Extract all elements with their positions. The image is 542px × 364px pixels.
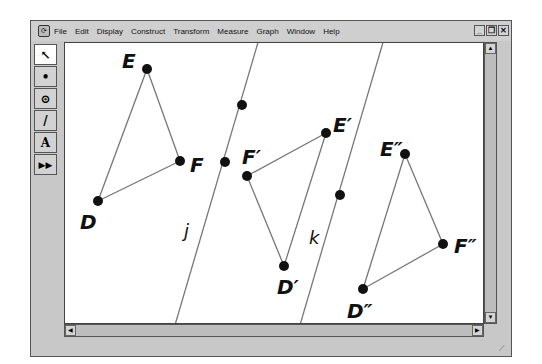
menu-file[interactable]: File (54, 27, 67, 36)
sketchpad-window: ⟳ File Edit Display Construct Transform … (30, 20, 512, 357)
point-d[interactable] (93, 196, 103, 206)
triangle-def[interactable] (98, 69, 180, 201)
label-f-double-prime: F″ (454, 234, 477, 258)
label-line-k: k (309, 227, 321, 248)
horizontal-scrollbar[interactable]: ◀ ▶ (64, 324, 484, 337)
point-d-double-prime[interactable] (358, 284, 368, 294)
compass-tool-icon[interactable]: ⊙ (34, 88, 57, 109)
point-f-double-prime[interactable] (438, 239, 448, 249)
menu-transform[interactable]: Transform (173, 27, 209, 36)
menu-window[interactable]: Window (287, 27, 315, 36)
point-e[interactable] (142, 64, 152, 74)
minimize-button[interactable]: _ (474, 25, 485, 36)
label-d-double-prime: D″ (347, 299, 373, 323)
line-j-point-1[interactable] (237, 100, 247, 110)
label-e-double-prime: E″ (380, 137, 403, 161)
menu-measure[interactable]: Measure (217, 27, 248, 36)
window-controls: _ ❐ ✕ (474, 25, 509, 36)
label-line-j: j (181, 220, 189, 241)
triangle-def-double-prime[interactable] (363, 154, 443, 289)
menubar: ⟳ File Edit Display Construct Transform … (31, 21, 511, 41)
custom-tool-icon[interactable]: ▶▶ (34, 154, 57, 175)
label-e: E (122, 49, 136, 73)
close-button[interactable]: ✕ (498, 25, 509, 36)
point-f-prime[interactable] (242, 171, 252, 181)
app-icon[interactable]: ⟳ (38, 25, 50, 37)
menu-display[interactable]: Display (97, 27, 123, 36)
sketch-canvas[interactable]: E F D E′ F′ D′ E″ F″ D″ j k (64, 42, 484, 324)
restore-button[interactable]: ❐ (486, 25, 497, 36)
menu-edit[interactable]: Edit (75, 27, 89, 36)
line-k-point[interactable] (335, 190, 345, 200)
label-e-prime: E′ (333, 113, 353, 137)
point-d-prime[interactable] (279, 261, 289, 271)
text-tool-icon[interactable]: A (34, 132, 57, 153)
label-f: F (190, 153, 204, 177)
scroll-up-button[interactable]: ▲ (485, 43, 496, 54)
menu-construct[interactable]: Construct (131, 27, 165, 36)
scroll-right-button[interactable]: ▶ (472, 325, 483, 336)
menu-help[interactable]: Help (323, 27, 339, 36)
resize-grip-icon[interactable]: ⟋ (499, 344, 508, 353)
label-d-prime: D′ (277, 275, 300, 299)
label-d: D (80, 210, 97, 234)
menu-graph[interactable]: Graph (256, 27, 278, 36)
point-f[interactable] (175, 156, 185, 166)
scroll-left-button[interactable]: ◀ (65, 325, 76, 336)
label-f-prime: F′ (242, 145, 262, 169)
point-e-prime[interactable] (321, 128, 331, 138)
scroll-down-button[interactable]: ▼ (485, 312, 496, 323)
vertical-scrollbar[interactable]: ▲ ▼ (484, 42, 497, 324)
sketch-drawing: E F D E′ F′ D′ E″ F″ D″ j k (65, 43, 484, 324)
toolbox: ↖ • ⊙ / A ▶▶ (34, 44, 59, 176)
point-tool-icon[interactable]: • (34, 66, 57, 87)
straightedge-tool-icon[interactable]: / (34, 110, 57, 131)
arrow-tool-icon[interactable]: ↖ (34, 44, 57, 65)
line-j-point-2[interactable] (220, 157, 230, 167)
